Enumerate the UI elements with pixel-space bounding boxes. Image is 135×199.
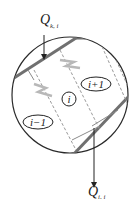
band-tick-left [28,70,34,80]
cell-boundary-left [34,70,76,150]
cell-current-label: i [67,93,70,105]
cell-prev-label: i−1 [30,116,46,128]
q-bottom-subscript: i, i [98,193,105,199]
q-top-subscript: k, i [50,22,59,30]
cell-boundary-right2 [108,42,134,100]
band-tick-bottom2 [92,110,118,126]
q-bottom-label: Q [88,184,98,199]
cell-next-label: i+1 [88,78,104,90]
diagram-canvas: Q k, i Q i, i i+1 i i−1 [0,0,135,199]
q-top-label: Q [40,12,50,27]
zigzag-icon [34,84,52,96]
zigzag-icon [60,60,80,68]
